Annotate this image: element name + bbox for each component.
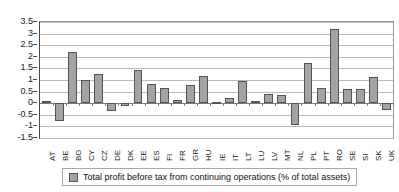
x-axis-tick-mark — [380, 103, 381, 106]
x-axis-tick-mark — [223, 103, 224, 106]
x-axis-tick-mark — [210, 103, 211, 106]
bar-lv — [264, 94, 273, 103]
legend-swatch-icon — [69, 173, 78, 182]
bar-at — [42, 101, 51, 103]
bar-hu — [199, 76, 208, 103]
bar-si — [356, 89, 365, 103]
x-axis-label-ro: RO — [336, 149, 344, 161]
y-axis-tick-mark — [33, 33, 37, 34]
x-axis-tick-mark — [171, 103, 172, 106]
y-axis-tick-label: 2 — [0, 52, 33, 61]
bar-pt — [317, 88, 326, 104]
bar-se — [343, 89, 352, 103]
x-axis-tick-mark — [262, 103, 263, 106]
bar-uk — [382, 103, 391, 110]
y-axis: 3.532.521.510.50-0.5-1-1.5 — [0, 21, 36, 137]
bar-fr — [173, 100, 182, 103]
y-axis-tick-label: 0 — [0, 98, 33, 107]
y-axis-tick-mark — [33, 67, 37, 68]
y-axis-tick-label: 1.5 — [0, 63, 33, 72]
x-axis-label-be: BE — [62, 150, 70, 161]
x-axis-label-nl: NL — [297, 151, 305, 161]
bar-lu — [251, 101, 260, 103]
x-axis-label-si: SI — [362, 153, 370, 161]
x-axis-tick-mark — [393, 103, 394, 106]
x-axis-label-dk: DK — [127, 150, 135, 161]
x-axis-label-mt: MT — [284, 149, 292, 161]
x-axis-tick-mark — [301, 103, 302, 106]
x-axis-tick-mark — [249, 103, 250, 106]
x-axis-tick-mark — [197, 103, 198, 106]
x-axis-label-cz: CZ — [101, 150, 109, 161]
y-axis-tick-mark — [33, 91, 37, 92]
bar-sk — [369, 77, 378, 103]
x-axis-label-lv: LV — [271, 152, 279, 161]
bar-bg — [68, 52, 77, 103]
x-axis-tick-mark — [328, 103, 329, 106]
bar-nl — [291, 103, 300, 125]
plot-area — [39, 21, 394, 139]
y-axis-tick-mark — [33, 56, 37, 57]
bar-gr — [186, 85, 195, 103]
y-axis-tick-label: 2.5 — [0, 40, 33, 49]
x-axis-label-pt: PT — [323, 151, 331, 161]
x-axis-label-es: ES — [153, 150, 161, 161]
x-axis-label-it: IT — [232, 154, 240, 161]
x-axis-label-sk: SK — [375, 150, 383, 161]
y-axis-tick-label: -0.5 — [0, 110, 33, 119]
x-axis-tick-mark — [288, 103, 289, 106]
legend-label: Total profit before tax from continuing … — [83, 172, 350, 182]
x-axis-tick-mark — [105, 103, 106, 106]
x-axis-label-ie: IE — [219, 153, 227, 161]
x-axis-label-fi: FI — [166, 154, 174, 161]
y-axis-tick-mark — [33, 114, 37, 115]
bar-cy — [81, 80, 90, 103]
x-axis-tick-mark — [118, 103, 119, 106]
bar-ee — [134, 70, 143, 104]
y-axis-tick-mark — [33, 137, 37, 138]
x-axis-tick-mark — [184, 103, 185, 106]
x-axis-label-se: SE — [349, 150, 357, 161]
x-axis-label-hu: HU — [205, 149, 213, 161]
x-axis-tick-mark — [79, 103, 80, 106]
x-axis-label-de: DE — [114, 150, 122, 161]
x-axis-tick-mark — [53, 103, 54, 106]
x-axis-label-pl: PL — [310, 151, 318, 161]
x-axis-tick-mark — [354, 103, 355, 106]
x-axis-tick-mark — [315, 103, 316, 106]
x-axis-label-lu: LU — [258, 151, 266, 161]
y-axis-tick-label: -1 — [0, 121, 33, 130]
y-axis-tick-mark — [33, 102, 37, 103]
x-axis-tick-mark — [92, 103, 93, 106]
x-axis-label-cy: CY — [88, 150, 96, 161]
bar-ro — [330, 29, 339, 103]
y-axis-tick-mark — [33, 79, 37, 80]
x-axis-tick-mark — [66, 103, 67, 106]
x-axis-tick-mark — [341, 103, 342, 106]
bar-ie — [212, 102, 221, 104]
x-axis-tick-mark — [275, 103, 276, 106]
x-axis-label-bg: BG — [75, 149, 83, 161]
x-axis-tick-mark — [367, 103, 368, 106]
bar-es — [147, 84, 156, 103]
bar-it — [225, 98, 234, 103]
bar-be — [55, 103, 64, 121]
bar-fi — [160, 88, 169, 103]
x-axis-label-fr: FR — [179, 150, 187, 161]
bar-chart: 3.532.521.510.50-0.5-1-1.5 ATBEBGCYCZDED… — [0, 0, 399, 192]
y-axis-tick-label: 3.5 — [0, 17, 33, 26]
bar-mt — [277, 95, 286, 104]
y-axis-tick-mark — [33, 21, 37, 22]
x-axis-label-lt: LT — [245, 152, 253, 161]
bar-dk — [121, 103, 130, 105]
bar-pl — [304, 63, 313, 103]
y-axis-tick-mark — [33, 44, 37, 45]
bars-layer — [40, 22, 393, 138]
x-axis: ATBEBGCYCZDEDKEEESFIFRGRHUIEITLTLULVMTNL… — [39, 139, 394, 164]
x-axis-label-gr: GR — [192, 149, 200, 161]
y-axis-tick-label: -1.5 — [0, 133, 33, 142]
y-axis-tick-label: 3 — [0, 29, 33, 38]
bar-cz — [94, 74, 103, 104]
y-axis-tick-mark — [33, 125, 37, 126]
y-axis-tick-label: 1 — [0, 75, 33, 84]
